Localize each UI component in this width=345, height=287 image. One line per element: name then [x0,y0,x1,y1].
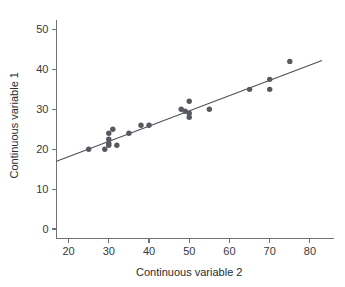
data-point [267,77,272,82]
x-tick-label: 70 [264,245,276,257]
data-point [287,59,292,64]
x-tick-label: 40 [143,245,155,257]
y-tick-label: 50 [36,23,48,35]
y-tick-label: 40 [36,63,48,75]
data-point [126,131,131,136]
data-point [114,143,119,148]
x-tick-label: 30 [103,245,115,257]
data-point [267,87,272,92]
data-point [106,143,111,148]
y-tick-label: 0 [42,223,48,235]
x-tick-label: 20 [62,245,74,257]
x-tick-label: 60 [223,245,235,257]
data-point [110,127,115,132]
x-tick-label: 50 [183,245,195,257]
y-tick-label: 10 [36,183,48,195]
data-point [106,131,111,136]
data-point [86,146,91,151]
x-axis-ticks: 20304050607080 [62,239,316,257]
data-point [207,107,212,112]
x-tick-label: 80 [304,245,316,257]
y-tick-label: 30 [36,103,48,115]
data-point [146,123,151,128]
data-point [247,87,252,92]
scatter-plot-figure: 01020304050 20304050607080 Continuous va… [0,0,345,287]
y-axis-ticks: 01020304050 [36,23,56,235]
data-point [187,99,192,104]
y-axis-title: Continuous variable 1 [8,72,20,178]
data-point [102,146,107,151]
plot-canvas: 01020304050 20304050607080 Continuous va… [0,0,345,287]
y-tick-label: 20 [36,143,48,155]
x-axis-title: Continuous variable 2 [136,266,242,278]
data-point [138,123,143,128]
data-point [187,115,192,120]
